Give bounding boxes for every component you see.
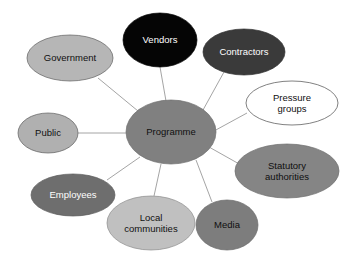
node-label-vendors: Vendors	[143, 34, 178, 45]
node-local-communities[interactable]: Localcommunities	[107, 196, 195, 250]
node-media[interactable]: Media	[196, 200, 258, 250]
node-government[interactable]: Government	[27, 35, 113, 81]
link-programme-government	[98, 78, 138, 111]
node-label-statutory-authorities: Statutoryauthorities	[265, 159, 309, 181]
nodes-group: GovernmentVendorsContractorsPressuregrou…	[18, 13, 339, 250]
node-vendors[interactable]: Vendors	[123, 13, 197, 67]
node-public[interactable]: Public	[18, 113, 78, 153]
link-programme-contractors	[203, 72, 224, 110]
node-contractors[interactable]: Contractors	[203, 29, 285, 75]
node-label-pressure-groups: Pressuregroups	[273, 91, 311, 113]
diagram-canvas: GovernmentVendorsContractorsPressuregrou…	[0, 0, 343, 261]
link-programme-media	[196, 160, 212, 202]
node-pressure-groups[interactable]: Pressuregroups	[246, 81, 338, 125]
node-label-media: Media	[214, 219, 241, 230]
node-label-government: Government	[44, 52, 97, 63]
link-programme-statutory-authorities	[209, 147, 241, 165]
link-programme-local-communities	[154, 164, 161, 196]
node-statutory-authorities[interactable]: Statutoryauthorities	[235, 144, 339, 198]
node-label-public: Public	[35, 127, 61, 138]
stakeholder-diagram: GovernmentVendorsContractorsPressuregrou…	[0, 0, 343, 261]
node-employees[interactable]: Employees	[31, 174, 115, 216]
link-programme-vendors	[160, 67, 166, 101]
link-programme-employees	[107, 157, 140, 180]
node-label-employees: Employees	[50, 189, 97, 200]
link-programme-pressure-groups	[214, 113, 247, 131]
node-programme[interactable]: Programme	[126, 100, 216, 164]
node-label-programme: Programme	[146, 126, 196, 137]
node-label-contractors: Contractors	[219, 46, 268, 57]
